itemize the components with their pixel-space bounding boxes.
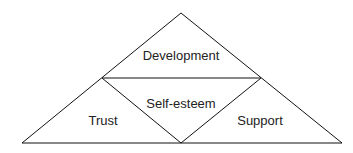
region-label-development: Development <box>143 48 220 63</box>
triangle-diagram: Development Self-esteem Trust Support <box>0 0 353 153</box>
region-label-support: Support <box>237 113 283 128</box>
region-label-self-esteem: Self-esteem <box>146 96 215 111</box>
region-label-trust: Trust <box>88 113 118 128</box>
